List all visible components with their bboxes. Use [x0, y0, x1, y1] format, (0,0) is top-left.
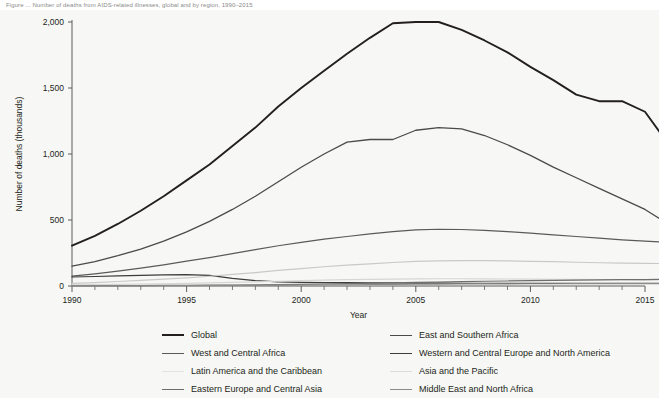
y-axis-title: Number of deaths (thousands): [14, 96, 24, 211]
legend-swatch-line-icon: [162, 389, 184, 390]
x-tick-label: 2015: [636, 295, 655, 305]
chart-plot-area: 05001,0001,5002,000 19901995200020052010…: [0, 10, 659, 320]
legend-label: Asia and the Pacific: [419, 366, 498, 377]
legend-item[interactable]: Global: [162, 326, 390, 344]
x-tick-label: 1990: [63, 295, 82, 305]
x-axis: 199019952000200520102015: [63, 286, 655, 305]
legend-grid: GlobalEast and Southern AfricaWest and C…: [162, 326, 659, 398]
y-axis: 05001,0001,5002,000: [43, 17, 72, 291]
figure-container: Figure ... Number of deaths from AIDS-re…: [0, 0, 659, 398]
y-tick-label: 1,000: [43, 149, 65, 159]
legend-item[interactable]: West and Central Africa: [162, 344, 390, 362]
legend-item[interactable]: Western and Central Europe and North Ame…: [390, 344, 659, 362]
line-chart: 05001,0001,5002,000 19901995200020052010…: [0, 10, 659, 320]
series-line-global: [72, 22, 659, 246]
legend-swatch-line-icon: [162, 353, 184, 354]
figure-caption: Figure ... Number of deaths from AIDS-re…: [0, 0, 659, 10]
x-tick-label: 2010: [521, 295, 540, 305]
legend-swatch-line-icon: [162, 371, 184, 372]
legend-item[interactable]: Middle East and North Africa: [390, 380, 659, 398]
x-tick-label: 2000: [292, 295, 311, 305]
series-line-east-and-southern-africa: [72, 128, 659, 267]
legend-item[interactable]: East and Southern Africa: [390, 326, 659, 344]
legend-label: Global: [191, 330, 217, 341]
legend-item[interactable]: Latin America and the Caribbean: [162, 362, 390, 380]
x-tick-label: 2005: [406, 295, 425, 305]
legend-label: East and Southern Africa: [419, 330, 519, 341]
legend-label: Western and Central Europe and North Ame…: [419, 348, 610, 359]
y-tick-label: 2,000: [43, 17, 65, 27]
series-line-west-and-central-africa: [72, 229, 659, 276]
legend-swatch-line-icon: [390, 335, 412, 336]
chart-legend: GlobalEast and Southern AfricaWest and C…: [0, 322, 659, 398]
legend-item[interactable]: Eastern Europe and Central Asia: [162, 380, 390, 398]
legend-swatch-line-icon: [390, 353, 412, 354]
series-lines: [72, 22, 659, 286]
legend-label: Middle East and North Africa: [419, 384, 533, 395]
legend-label: Eastern Europe and Central Asia: [191, 384, 322, 395]
y-tick-label: 1,500: [43, 83, 65, 93]
legend-swatch-line-icon: [162, 334, 184, 336]
legend-label: West and Central Africa: [191, 348, 285, 359]
y-tick-label: 500: [50, 215, 64, 225]
y-tick-label: 0: [59, 281, 64, 291]
legend-item[interactable]: Asia and the Pacific: [390, 362, 659, 380]
x-axis-title: Year: [350, 310, 367, 320]
legend-label: Latin America and the Caribbean: [191, 366, 322, 377]
legend-swatch-line-icon: [390, 389, 412, 390]
x-tick-label: 1995: [177, 295, 196, 305]
legend-swatch-line-icon: [390, 371, 412, 372]
